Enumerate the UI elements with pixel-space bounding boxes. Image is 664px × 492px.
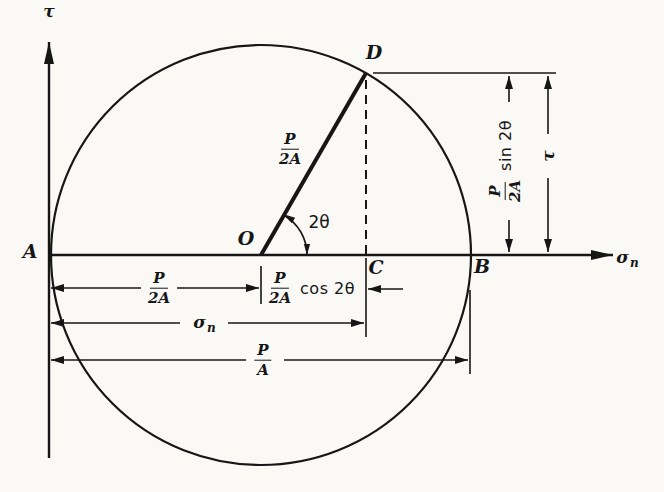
row2-sigma-base: σ — [193, 312, 206, 332]
diagram-canvas — [0, 0, 664, 492]
vdim1-label: P 2A sin 2θ — [487, 120, 524, 202]
point-label-C: C — [368, 256, 383, 278]
dim-row1-right-label: P 2A cos 2θ — [269, 270, 355, 307]
vdim1-sin-text: sin 2θ — [496, 120, 515, 171]
radius-label-fraction: P 2A — [279, 131, 301, 168]
point-label-D: D — [366, 41, 382, 63]
vdim2-label: τ — [538, 150, 558, 161]
row2-sigma-sub: n — [207, 321, 216, 335]
vdim1-denominator: 2A — [506, 180, 524, 202]
sigma-axis-label-base: σ — [616, 247, 629, 267]
dim-row1-left-label: P 2A — [148, 270, 170, 307]
row1-right-denominator: 2A — [269, 289, 291, 307]
row1-left-denominator: 2A — [148, 289, 170, 307]
point-label-B: B — [474, 255, 490, 277]
row3-numerator: P — [254, 342, 271, 361]
sigma-axis-label: σn — [616, 247, 637, 267]
row3-denominator: A — [257, 361, 269, 379]
point-label-A: A — [23, 240, 38, 262]
radius-fraction-denominator: 2A — [279, 150, 301, 168]
row1-right-numerator: P — [271, 270, 288, 289]
row1-right-cos-text: cos 2θ — [300, 279, 355, 298]
sigma-axis-label-sub: n — [630, 256, 639, 270]
point-label-O: O — [238, 227, 255, 249]
angle-label-2theta: 2θ — [308, 212, 329, 232]
row1-left-numerator: P — [150, 270, 167, 289]
angle-arc-arrowhead-lower — [304, 244, 310, 255]
dim-row3-label: P A — [254, 342, 271, 379]
dim-row2-label: σn — [193, 312, 214, 332]
radius-fraction-numerator: P — [281, 131, 298, 150]
angle-arc — [284, 215, 307, 255]
vdim1-numerator: P — [487, 182, 506, 199]
tau-axis-label: τ — [43, 1, 54, 21]
mohr-circle-figure: τ σn A O D C B P 2A 2θ P 2A P 2A cos 2θ … — [0, 0, 664, 492]
